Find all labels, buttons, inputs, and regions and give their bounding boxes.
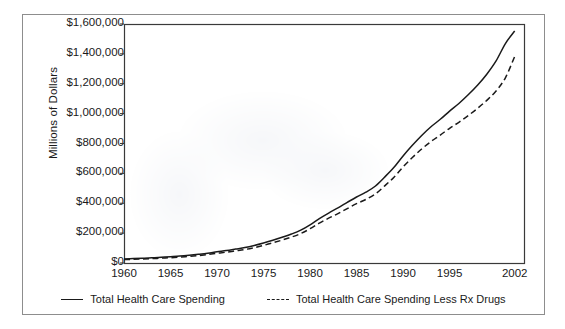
legend-swatch-solid-icon (61, 299, 83, 300)
legend-swatch-dashed-icon (267, 299, 289, 300)
data-series-line-1 (124, 31, 515, 259)
legend-item: Total Health Care Spending (61, 293, 225, 305)
legend-label: Total Health Care Spending (90, 293, 225, 305)
x-axis-tick-label: 2002 (485, 267, 545, 279)
x-axis-tick-label: 1995 (420, 267, 480, 279)
chart-figure: $1,600,000$1,400,000$1,200,000$1,000,000… (22, 14, 545, 315)
plot-frame (125, 25, 525, 264)
legend-label: Total Health Care Spending Less Rx Drugs (296, 293, 506, 305)
legend-item: Total Health Care Spending Less Rx Drugs (267, 293, 506, 305)
chart-legend: Total Health Care SpendingTotal Health C… (23, 293, 544, 305)
data-series-line-2 (124, 56, 515, 259)
